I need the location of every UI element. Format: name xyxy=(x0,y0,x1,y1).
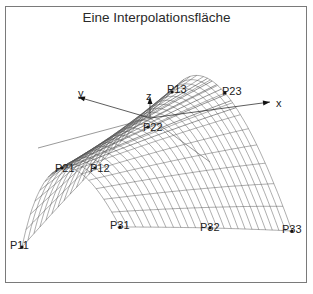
control-point-p32-label: P32 xyxy=(200,221,220,233)
x-axis-arrowhead-icon xyxy=(263,100,270,105)
interpolation-surface-plot: xyz P11P12P13P21P22P23P31P32P33 xyxy=(0,0,313,294)
control-point-p33-label: P33 xyxy=(282,223,302,235)
control-point-p23-label: P23 xyxy=(222,85,242,97)
y-axis xyxy=(78,97,150,118)
control-point-p12-label: P12 xyxy=(90,162,110,174)
mesh-line xyxy=(64,143,173,228)
control-point-p22-label: P22 xyxy=(143,121,163,133)
mesh-line xyxy=(22,168,120,247)
mesh-line xyxy=(58,146,166,227)
mesh-line xyxy=(96,163,265,189)
control-point-p21-label: P21 xyxy=(55,162,75,174)
x-axis-label: x xyxy=(276,97,282,109)
control-point-p11-label: P11 xyxy=(10,239,29,251)
y-axis-label: y xyxy=(78,87,84,99)
control-point-p31-label: P31 xyxy=(110,219,130,231)
control-point-p13-label: P13 xyxy=(167,83,187,95)
z-axis-label: z xyxy=(146,90,152,102)
